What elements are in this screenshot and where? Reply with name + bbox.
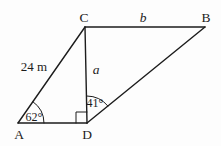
side-label-ac: 24 m <box>21 59 47 74</box>
segment-db <box>87 27 205 123</box>
vertex-label-d: D <box>82 127 92 142</box>
vertex-label-b: B <box>201 10 210 25</box>
side-label-cb: b <box>140 10 147 25</box>
geometry-diagram: A D C B 24 m a b 62° 41° <box>0 0 221 146</box>
angle-label-d: 41° <box>87 96 104 110</box>
vertex-label-c: C <box>79 10 88 25</box>
angle-label-a: 62° <box>26 110 43 124</box>
diagram-lines <box>18 27 205 123</box>
segment-ac <box>18 27 85 123</box>
vertex-label-a: A <box>14 127 24 142</box>
diagram-canvas: A D C B 24 m a b 62° 41° <box>0 0 221 146</box>
side-label-cd: a <box>93 62 100 77</box>
right-angle-marker <box>76 112 87 123</box>
